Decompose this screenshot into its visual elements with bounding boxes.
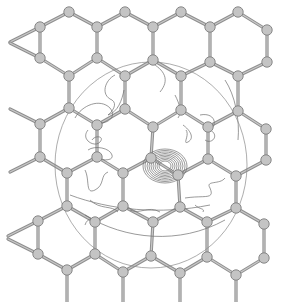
atom — [33, 216, 43, 226]
atom — [62, 265, 72, 275]
atom — [202, 217, 212, 227]
atom — [62, 201, 72, 211]
atom — [64, 103, 74, 113]
atom — [175, 268, 185, 278]
atom — [35, 152, 45, 162]
atom — [176, 71, 186, 81]
atom — [148, 55, 158, 65]
atom — [262, 57, 272, 67]
contour-line — [86, 130, 102, 144]
atom — [233, 71, 243, 81]
atom — [33, 249, 43, 259]
atom — [92, 22, 102, 32]
atom — [90, 217, 100, 227]
atom — [92, 152, 102, 162]
contour-line — [85, 170, 108, 191]
atom — [64, 71, 74, 81]
atom — [176, 105, 186, 115]
atom — [35, 53, 45, 63]
atom — [261, 124, 271, 134]
atom — [231, 171, 241, 181]
atom — [148, 122, 158, 132]
contour-line — [183, 125, 191, 143]
atom — [120, 7, 130, 17]
atom — [148, 217, 158, 227]
atom — [148, 22, 158, 32]
atom — [35, 22, 45, 32]
atom — [259, 219, 269, 229]
atom — [146, 153, 156, 163]
atom — [64, 7, 74, 17]
atom — [62, 168, 72, 178]
atom — [118, 267, 128, 277]
atom — [120, 104, 130, 114]
atom — [173, 170, 183, 180]
atom — [231, 270, 241, 280]
contour-line — [195, 205, 203, 212]
atom — [146, 251, 156, 261]
atom — [90, 249, 100, 259]
atom — [35, 119, 45, 129]
atom — [231, 203, 241, 213]
atom — [203, 154, 213, 164]
atom — [262, 25, 272, 35]
lattice-figure — [0, 0, 284, 302]
atom — [92, 120, 102, 130]
atom — [203, 122, 213, 132]
atom — [202, 252, 212, 262]
atom — [205, 22, 215, 32]
atom — [176, 7, 186, 17]
contour-line — [185, 178, 225, 198]
atom — [259, 253, 269, 263]
atom — [233, 106, 243, 116]
atom — [118, 168, 128, 178]
atom — [92, 53, 102, 63]
atom — [261, 155, 271, 165]
density-contours — [70, 62, 238, 236]
atom — [233, 7, 243, 17]
atom — [205, 57, 215, 67]
atom — [175, 202, 185, 212]
atom — [118, 201, 128, 211]
atom — [120, 71, 130, 81]
bond-layer — [8, 12, 267, 302]
